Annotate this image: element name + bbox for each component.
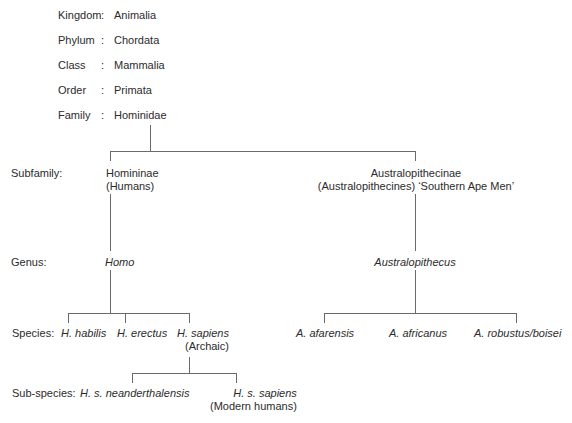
rank-class-value: Mammalia	[114, 59, 165, 72]
australopithecinae-drop-line	[415, 151, 416, 161]
subspecies-h-s-sapiens: H. s. sapiens (Modern humans)	[210, 387, 297, 413]
erectus-drop-line	[125, 313, 126, 323]
habilis-drop-line	[68, 313, 69, 323]
rank-order-label: Order	[58, 84, 86, 97]
subfamily-name: Australopithecinae	[305, 167, 527, 180]
species-a-africanus: A. africanus	[389, 327, 447, 340]
australopithecinae-to-genus-line	[415, 194, 416, 251]
family-stem-line	[150, 125, 151, 152]
rank-separator: :	[101, 109, 104, 122]
level-label-species: Species:	[12, 327, 54, 340]
homininae-drop-line	[110, 151, 111, 161]
subfamily-homininae: Homininae (Humans)	[106, 167, 159, 193]
neanderthalensis-drop-line	[132, 373, 133, 383]
rank-order-value: Primata	[114, 84, 152, 97]
species-note: (Archaic)	[177, 340, 229, 353]
homo-species-branch-line	[68, 313, 190, 314]
rank-kingdom-value: Animalia	[114, 9, 156, 22]
species-a-afarensis: A. afarensis	[296, 327, 354, 340]
australopithecus-stem-line	[415, 270, 416, 314]
sapiens-stem-line	[189, 357, 190, 374]
rank-separator: :	[101, 9, 104, 22]
subfamily-australopithecinae: Australopithecinae (Australopithecines) …	[305, 167, 527, 193]
rank-phylum-value: Chordata	[114, 34, 159, 47]
rank-family-label: Family	[58, 109, 90, 122]
rank-separator: :	[101, 59, 104, 72]
australopithecus-species-branch-line	[324, 313, 517, 314]
level-label-subfamily: Subfamily:	[11, 167, 62, 180]
genus-homo: Homo	[105, 256, 134, 269]
rank-class-label: Class	[58, 59, 86, 72]
subspecies-branch-line	[132, 373, 237, 374]
subfamily-note: (Humans)	[106, 180, 159, 193]
subfamily-branch-line	[110, 151, 416, 152]
robustus-drop-line	[516, 313, 517, 323]
rank-kingdom-label: Kingdom	[58, 9, 101, 22]
genus-australopithecus: Australopithecus	[365, 256, 465, 269]
homo-stem-line	[110, 270, 111, 314]
homininae-to-homo-line	[110, 194, 111, 251]
level-label-subspecies: Sub-species:	[12, 387, 76, 400]
subfamily-note: (Australopithecines) ‘Southern Ape Men’	[305, 180, 527, 193]
species-name: H. sapiens	[177, 327, 229, 340]
level-label-genus: Genus:	[11, 256, 46, 269]
rank-family-value: Hominidae	[114, 109, 167, 122]
s-sapiens-drop-line	[236, 373, 237, 383]
species-h-habilis: H. habilis	[61, 327, 106, 340]
afarensis-drop-line	[324, 313, 325, 323]
species-h-sapiens: H. sapiens (Archaic)	[177, 327, 229, 353]
rank-phylum-label: Phylum	[58, 34, 95, 47]
rank-separator: :	[101, 84, 104, 97]
subspecies-h-s-neanderthalensis: H. s. neanderthalensis	[80, 387, 189, 400]
sapiens-drop-line	[189, 313, 190, 323]
species-a-robustus-boisei: A. robustus/boisei	[474, 327, 561, 340]
species-h-erectus: H. erectus	[117, 327, 167, 340]
subspecies-note: (Modern humans)	[210, 400, 297, 413]
rank-separator: :	[101, 34, 104, 47]
subfamily-name: Homininae	[106, 167, 159, 180]
subspecies-name: H. s. sapiens	[210, 387, 297, 400]
